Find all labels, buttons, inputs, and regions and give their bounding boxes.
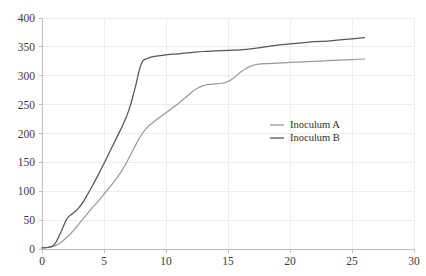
chart-legend: Inoculum AInoculum B xyxy=(270,119,340,143)
x-axis-tick-label: 20 xyxy=(284,255,296,267)
chart-container: 050100150200250300350400 051015202530 In… xyxy=(0,0,426,276)
x-axis-tick-label: 25 xyxy=(346,255,358,267)
x-axis-tick-label: 30 xyxy=(408,255,420,267)
y-axis-tick-label: 300 xyxy=(18,70,36,82)
line-chart: 050100150200250300350400 051015202530 In… xyxy=(0,0,426,276)
y-axis-tick-label: 50 xyxy=(24,214,36,226)
x-axis-tick-label: 10 xyxy=(160,255,172,267)
y-axis-tick-label: 400 xyxy=(18,12,36,24)
legend-label-inoculum-b: Inoculum B xyxy=(290,132,340,143)
series-line-inoculum-a xyxy=(42,59,364,248)
axis-lines xyxy=(39,18,415,253)
x-axis-tick-label: 15 xyxy=(222,255,234,267)
y-axis-tick-label: 250 xyxy=(18,99,36,111)
y-axis-tick-label: 200 xyxy=(18,128,36,140)
y-axis-tick-label: 0 xyxy=(29,243,35,255)
grid-lines xyxy=(42,18,414,249)
y-axis-tick-label: 350 xyxy=(18,41,36,53)
y-axis-tick-labels: 050100150200250300350400 xyxy=(18,12,36,255)
x-axis-tick-labels: 051015202530 xyxy=(39,255,420,267)
x-axis-tick-label: 0 xyxy=(39,255,45,267)
x-axis-tick-label: 5 xyxy=(101,255,107,267)
y-axis-tick-label: 100 xyxy=(18,185,36,197)
y-axis-tick-label: 150 xyxy=(18,156,36,168)
legend-label-inoculum-a: Inoculum A xyxy=(290,119,340,130)
